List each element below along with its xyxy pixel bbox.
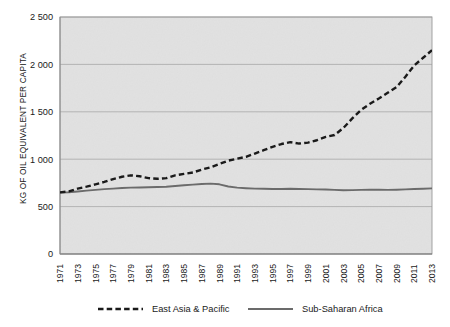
x-tick-label: 1989 [215,264,225,283]
x-tick-label: 2003 [339,264,349,283]
legend-label-sub-saharan-africa: Sub-Saharan Africa [302,304,383,314]
legend-label-east-asia-pacific: East Asia & Pacific [152,304,230,314]
x-tick-label: 1991 [232,264,242,283]
x-tick-label: 1971 [55,264,65,283]
x-tick-label: 1987 [197,264,207,283]
x-tick-label: 1995 [268,264,278,283]
x-tick-label: 1977 [108,264,118,283]
y-tick-label: 1 000 [30,155,53,165]
x-tick-label: 2007 [374,264,384,283]
x-tick-label: 2001 [321,264,331,283]
x-tick-label: 1993 [250,264,260,283]
chart-figure: 2 500 2 000 1 500 1 000 500 0 KG OF OIL … [0,0,450,327]
x-tick-label: 1983 [161,264,171,283]
plot-area [60,17,432,254]
x-tick-label: 1981 [144,264,154,283]
x-tick-label: 1999 [303,264,313,283]
plot-texture-overlay [60,17,432,254]
x-tick-label: 2011 [409,264,419,283]
x-tick-label: 1985 [179,264,189,283]
y-tick-label: 2 500 [30,12,53,22]
x-tick-label: 2013 [427,264,437,283]
x-tick-label: 1979 [126,264,136,283]
x-tick-label: 1973 [73,264,83,283]
x-tick-label: 2005 [356,264,366,283]
y-tick-label: 1 500 [30,107,53,117]
x-tick-label: 2009 [392,264,402,283]
x-tick-label: 1997 [285,264,295,283]
x-tick-label: 1975 [91,264,101,283]
y-tick-label: 500 [38,202,53,212]
energy-use-line-chart: 2 500 2 000 1 500 1 000 500 0 KG OF OIL … [0,0,450,327]
y-axis-title: KG OF OIL EQUIVALENT PER CAPITA [18,53,28,204]
y-tick-label: 2 000 [30,60,53,70]
y-tick-label: 0 [48,249,53,259]
